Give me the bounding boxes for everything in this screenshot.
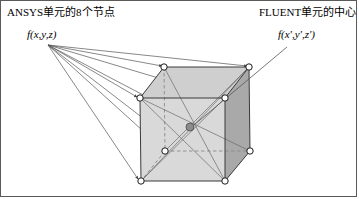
node-front-top-right [222, 95, 228, 101]
node-back-top-left [161, 64, 167, 70]
source-function-label: f(x,y,z) [27, 29, 56, 40]
figure-frame: ANSYS单元的8个节点 FLUENT单元的中心 f(x,y,z) f(x',y… [0, 0, 357, 197]
node-front-top-left [137, 95, 143, 101]
leader-to-back-top-right [48, 45, 247, 66]
ansys-nodes-title: ANSYS单元的8个节点 [7, 7, 115, 18]
fluent-centre-title: FLUENT单元的中心 [259, 7, 356, 18]
target-function-label: f(x',y',z') [278, 29, 315, 40]
node-front-bottom-left [138, 178, 144, 184]
leader-to-front-bottom-left [48, 45, 138, 179]
node-back-bottom-left [162, 148, 168, 154]
fluent-cell-centre-point [186, 123, 194, 131]
node-back-top-right [246, 64, 252, 70]
node-front-bottom-right [222, 178, 228, 184]
node-back-bottom-right [247, 148, 253, 154]
